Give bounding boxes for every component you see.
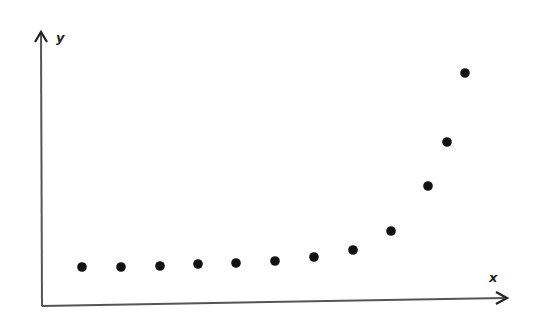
- data-point: [309, 252, 319, 262]
- x-axis-label: x: [488, 270, 498, 285]
- y-axis: [41, 34, 42, 306]
- data-point: [155, 261, 165, 271]
- data-points: [77, 68, 470, 272]
- data-point: [460, 68, 470, 78]
- data-point: [231, 258, 241, 268]
- y-axis-label: y: [56, 30, 65, 45]
- data-point: [270, 256, 280, 266]
- scatter-chart: y x: [0, 0, 533, 330]
- data-point: [423, 181, 433, 191]
- data-point: [116, 262, 126, 272]
- data-point: [348, 245, 358, 255]
- data-point: [386, 226, 396, 236]
- x-axis: [42, 298, 504, 306]
- data-point: [77, 262, 87, 272]
- data-point: [193, 259, 203, 269]
- data-point: [442, 137, 452, 147]
